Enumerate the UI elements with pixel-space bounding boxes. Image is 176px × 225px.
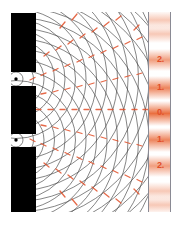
screen-fringe-faint-top-b — [149, 25, 171, 43]
interference-figure: 2. 1. 0. 1. 2. — [0, 0, 176, 225]
fringe-label-order-1-lower: 1. — [157, 135, 164, 144]
barrier-block-middle — [11, 86, 36, 134]
barrier-block-upper — [11, 13, 36, 72]
barrier-group — [11, 13, 36, 212]
slit-source-dot-upper — [14, 77, 17, 80]
fringe-label-order-2-lower: 2. — [157, 161, 164, 170]
fringe-label-order-0: 0. — [157, 108, 164, 117]
wave-diagram-canvas — [0, 0, 176, 225]
fringe-label-order-1-upper: 1. — [157, 83, 164, 92]
barrier-block-lower — [11, 147, 36, 212]
screen-fringe-faint-bottom-b — [149, 196, 171, 214]
slit-source-dot-lower — [14, 138, 17, 141]
fringe-label-order-2-upper: 2. — [157, 55, 164, 64]
